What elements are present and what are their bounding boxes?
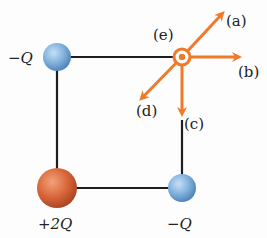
label-c: (c) bbox=[184, 115, 204, 133]
label-bottom-left: +2Q bbox=[38, 215, 72, 233]
charge-diagram: −Q +2Q −Q (e) (a) (b) (c) (d) bbox=[0, 0, 267, 238]
charge-bottom-left bbox=[37, 168, 77, 208]
charge-top-left bbox=[43, 43, 71, 71]
label-b: (b) bbox=[238, 63, 259, 81]
point-e-symbol bbox=[174, 49, 190, 65]
label-top-left: −Q bbox=[8, 49, 33, 67]
label-bottom-right: −Q bbox=[167, 215, 192, 233]
label-a: (a) bbox=[226, 12, 247, 30]
label-d: (d) bbox=[136, 102, 157, 120]
diagram-canvas: −Q +2Q −Q (e) (a) (b) (c) (d) bbox=[0, 0, 267, 238]
label-e: (e) bbox=[153, 26, 174, 44]
charge-bottom-right bbox=[168, 174, 196, 202]
